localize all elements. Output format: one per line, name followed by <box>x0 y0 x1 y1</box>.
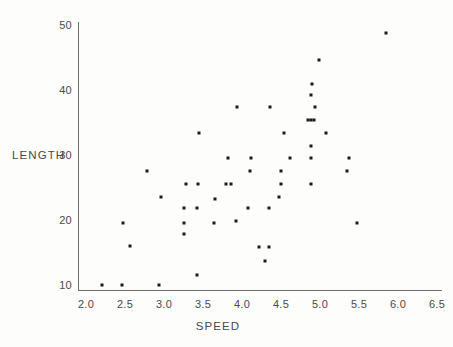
data-point <box>280 169 283 172</box>
data-point <box>195 207 198 210</box>
data-point <box>230 182 233 185</box>
data-point <box>278 195 281 198</box>
data-point <box>356 221 359 224</box>
data-point <box>346 169 349 172</box>
data-point <box>309 182 312 185</box>
data-point <box>183 233 186 236</box>
data-point <box>309 157 312 160</box>
data-point <box>347 157 350 160</box>
data-point <box>129 245 132 248</box>
data-point <box>258 246 261 249</box>
data-point <box>212 221 215 224</box>
data-point <box>145 170 148 173</box>
data-point <box>196 182 199 185</box>
data-point <box>312 118 315 121</box>
data-point <box>311 82 314 85</box>
data-point <box>247 207 250 210</box>
data-point <box>100 284 103 287</box>
data-point <box>236 105 239 108</box>
data-point <box>250 156 253 159</box>
data-point <box>289 157 292 160</box>
data-point <box>214 198 217 201</box>
data-points-layer <box>0 0 453 347</box>
data-point <box>183 207 186 210</box>
data-point <box>264 259 267 262</box>
data-point <box>269 105 272 108</box>
scatter-plot: 1020304050 2.02.53.03.54.04.55.05.56.06.… <box>0 0 453 347</box>
data-point <box>385 31 388 34</box>
data-point <box>310 94 313 97</box>
data-point <box>121 221 124 224</box>
data-point <box>318 59 321 62</box>
data-point <box>226 157 229 160</box>
data-point <box>283 131 286 134</box>
data-point <box>267 207 270 210</box>
data-point <box>183 221 186 224</box>
data-point <box>267 246 270 249</box>
data-point <box>225 182 228 185</box>
data-point <box>159 195 162 198</box>
data-point <box>184 182 187 185</box>
data-point <box>120 284 123 287</box>
data-point <box>325 131 328 134</box>
data-point <box>314 105 317 108</box>
data-point <box>195 273 198 276</box>
data-point <box>280 182 283 185</box>
data-point <box>248 169 251 172</box>
data-point <box>158 284 161 287</box>
data-point <box>234 220 237 223</box>
data-point <box>309 144 312 147</box>
data-point <box>198 131 201 134</box>
